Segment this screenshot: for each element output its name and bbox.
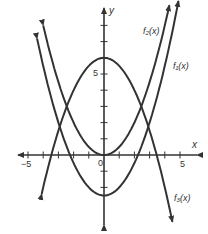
x-tick-label-neg5: −5 [21, 159, 31, 169]
x-axis-label: x [192, 139, 197, 150]
f3-label: f₃(x) [174, 193, 191, 203]
f1-label: f₁(x) [173, 61, 189, 71]
y-axis-label: y [109, 5, 114, 16]
origin-label: 0 [98, 158, 103, 168]
f2-label: f₂(x) [143, 26, 159, 36]
x-tick-label-5: 5 [180, 159, 185, 169]
curve-f3 [42, 58, 173, 222]
y-tick-label-5: 5 [93, 68, 98, 78]
